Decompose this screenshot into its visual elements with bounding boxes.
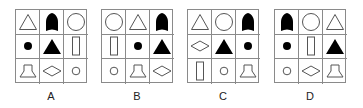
- dot-filled-icon: [126, 35, 150, 60]
- trapezoid-outline-icon: [323, 59, 347, 84]
- option-d[interactable]: D: [274, 9, 346, 83]
- dot-filled-icon: [16, 35, 40, 60]
- option-label: B: [101, 90, 173, 102]
- option-b[interactable]: B: [101, 9, 173, 83]
- diamond-outline-icon: [40, 59, 64, 84]
- option-grid: [15, 9, 87, 83]
- option-label: D: [274, 90, 346, 102]
- diamond-outline-icon: [150, 59, 174, 84]
- small-circle-outline-icon: [212, 59, 236, 84]
- bullet-filled-icon: [40, 10, 64, 35]
- bullet-filled-icon: [150, 10, 174, 35]
- trapezoid-outline-icon: [236, 59, 260, 84]
- small-circle-outline-icon: [275, 59, 299, 84]
- circle-outline-icon: [212, 10, 236, 35]
- circle-outline-icon: [64, 10, 88, 35]
- trapezoid-outline-icon: [126, 59, 150, 84]
- small-circle-outline-icon: [102, 59, 126, 84]
- triangle-outline-icon: [16, 10, 40, 35]
- bullet-filled-icon: [236, 10, 260, 35]
- dot-filled-icon: [236, 35, 260, 60]
- triangle-outline-icon: [188, 10, 212, 35]
- triangle-outline-icon: [323, 10, 347, 35]
- dot-filled-icon: [275, 35, 299, 60]
- option-grid: [101, 9, 173, 83]
- option-a[interactable]: A: [15, 9, 87, 83]
- circle-outline-icon: [102, 10, 126, 35]
- rectangle-outline-icon: [102, 35, 126, 60]
- rectangle-outline-icon: [299, 35, 323, 60]
- triangle-outline-icon: [126, 10, 150, 35]
- option-label: A: [15, 90, 87, 102]
- diamond-outline-icon: [299, 59, 323, 84]
- option-grid: [187, 9, 259, 83]
- rectangle-outline-icon: [188, 59, 212, 84]
- option-label: C: [187, 90, 259, 102]
- bullet-filled-icon: [275, 10, 299, 35]
- triangle-filled-icon: [40, 35, 64, 60]
- rectangle-outline-icon: [64, 35, 88, 60]
- diamond-outline-icon: [188, 35, 212, 60]
- option-c[interactable]: C: [187, 9, 259, 83]
- option-grid: [274, 9, 346, 83]
- trapezoid-outline-icon: [16, 59, 40, 84]
- circle-outline-icon: [299, 10, 323, 35]
- small-circle-outline-icon: [64, 59, 88, 84]
- triangle-filled-icon: [212, 35, 236, 60]
- triangle-filled-icon: [323, 35, 347, 60]
- triangle-filled-icon: [150, 35, 174, 60]
